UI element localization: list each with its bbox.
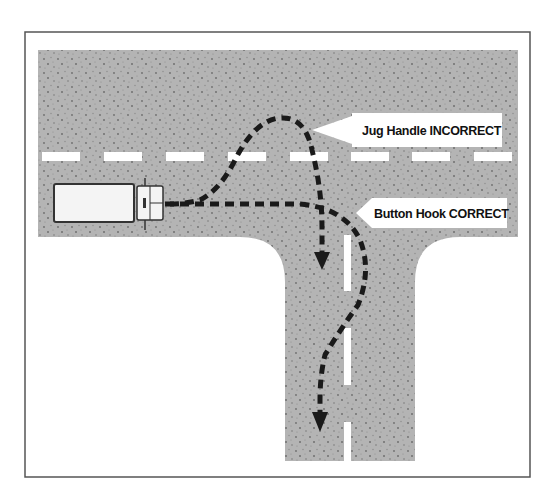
jug-handle-label-text: Jug Handle INCORRECT: [362, 124, 502, 138]
turn-diagram: Jug Handle INCORRECT Button Hook CORRECT: [0, 0, 556, 492]
vertical-center-line: [344, 235, 351, 461]
button-hook-label: Button Hook CORRECT: [356, 198, 509, 228]
truck-trailer: [54, 184, 134, 222]
button-hook-label-text: Button Hook CORRECT: [374, 207, 509, 221]
